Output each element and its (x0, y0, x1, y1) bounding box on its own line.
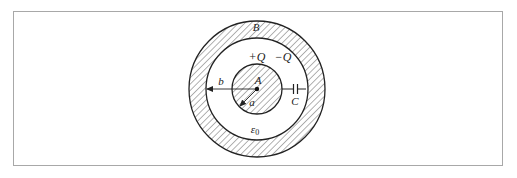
label-plus-q: +Q (249, 50, 266, 64)
label-b-shell: B (253, 21, 260, 33)
epsilon-subscript: 0 (255, 128, 259, 137)
spherical-capacitor-diagram: B +Q −Q A b a C ε0 (0, 0, 517, 178)
center-point (255, 87, 259, 91)
label-a-sphere: A (254, 74, 262, 86)
label-radius-a: a (249, 96, 255, 108)
label-epsilon-0: ε0 (251, 123, 259, 137)
label-radius-b: b (218, 75, 224, 87)
capacitor-connection (282, 84, 306, 94)
label-capacitor-c: C (291, 95, 299, 107)
label-minus-q: −Q (275, 50, 292, 64)
